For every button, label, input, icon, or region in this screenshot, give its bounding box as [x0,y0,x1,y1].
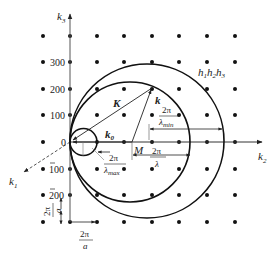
origin-label: 0 [61,137,66,148]
svg-text:2π: 2π [109,153,119,163]
fraction-2pi-a-horizontal: 2π a [79,229,93,251]
svg-text:2π: 2π [162,105,172,115]
label-k0: k0 [105,128,115,142]
tick-100: 100 [50,110,65,121]
svg-text:2π: 2π [80,229,90,239]
svg-text:2π: 2π [152,146,162,156]
svg-text:a: a [83,241,88,251]
ewald-sphere-diagram: k3 k2 k1 0 300 200 100 100 200 K k k0 M … [0,0,274,255]
svg-text:2π: 2π [42,207,52,217]
tick-300: 300 [50,57,65,68]
label-M: M [133,144,144,156]
svg-text:λmax: λmax [103,165,120,177]
fraction-2pi-lambda-max: 2π λmax [103,153,126,177]
svg-text:λmin: λmin [158,117,174,129]
fraction-2pi-a-vertical: 2π a [42,203,63,217]
tick-neg-200: 200 [49,190,64,201]
k2-label: k2 [258,150,267,165]
tick-neg-100: 100 [49,164,64,175]
vector-k [132,90,151,142]
k3-label: k3 [57,10,66,25]
svg-text:a: a [53,208,63,213]
outer-sphere-circle [70,64,224,218]
label-K: K [112,97,121,109]
plane-label-h1h2h3: h1h2h3 [198,66,226,80]
lambda-max-leader [92,148,104,160]
fraction-2pi-lambda: 2π λ [150,146,166,169]
label-k: k [155,94,161,106]
svg-text:λ: λ [154,159,159,169]
fraction-2pi-lambda-min: 2π λmin [158,105,180,129]
k1-label: k1 [9,175,17,190]
tick-200: 200 [50,84,65,95]
